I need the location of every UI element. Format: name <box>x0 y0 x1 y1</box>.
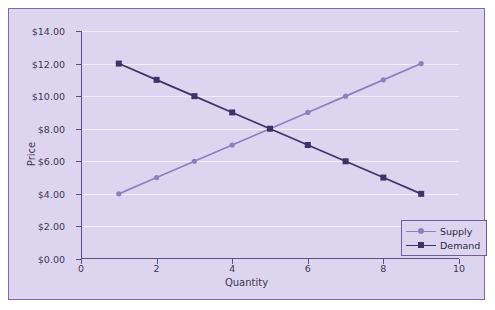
legend-item-demand: Demand <box>406 238 482 252</box>
legend-label: Demand <box>436 240 480 251</box>
chart-legend: SupplyDemand <box>401 220 487 256</box>
x-tick-label: 6 <box>305 263 311 274</box>
x-axis-title: Quantity <box>9 277 484 288</box>
data-point-marker <box>154 175 159 180</box>
x-axis-tick-labels: 0246810 <box>81 259 459 275</box>
square-marker-icon <box>418 242 424 248</box>
data-point-marker <box>192 159 197 164</box>
legend-label: Supply <box>436 226 472 237</box>
data-point-marker <box>154 77 160 83</box>
x-tick-label: 4 <box>229 263 235 274</box>
data-point-marker <box>230 142 235 147</box>
y-tick-label: $2.00 <box>38 221 65 232</box>
data-point-marker <box>229 109 235 115</box>
y-tick-label: $6.00 <box>38 156 65 167</box>
y-tick-label: $12.00 <box>32 58 65 69</box>
x-tick <box>232 259 233 264</box>
data-point-marker <box>343 94 348 99</box>
data-point-marker <box>267 126 273 132</box>
x-tick <box>157 259 158 264</box>
data-point-marker <box>305 110 310 115</box>
data-point-marker <box>381 77 386 82</box>
data-point-marker <box>343 158 349 164</box>
y-tick-label: $4.00 <box>38 188 65 199</box>
data-point-marker <box>380 175 386 181</box>
data-point-marker <box>305 142 311 148</box>
y-tick-label: $10.00 <box>32 91 65 102</box>
x-tick-label: 8 <box>380 263 386 274</box>
data-point-marker <box>191 93 197 99</box>
y-tick-label: $0.00 <box>38 254 65 265</box>
x-tick <box>383 259 384 264</box>
legend-swatch <box>406 239 436 251</box>
y-tick-label: $14.00 <box>32 26 65 37</box>
x-tick-label: 2 <box>154 263 160 274</box>
data-point-marker <box>418 191 424 197</box>
x-tick <box>81 259 82 264</box>
circle-marker-icon <box>418 228 424 234</box>
y-axis-tick-labels: $0.00$2.00$4.00$6.00$8.00$10.00$12.00$14… <box>1 31 65 259</box>
x-tick-label: 0 <box>78 263 84 274</box>
y-tick-label: $8.00 <box>38 123 65 134</box>
x-tick <box>308 259 309 264</box>
data-point-marker <box>116 191 121 196</box>
series-demand <box>116 61 424 197</box>
data-point-marker <box>419 61 424 66</box>
legend-item-supply: Supply <box>406 224 482 238</box>
x-tick-label: 10 <box>453 263 465 274</box>
data-point-marker <box>116 61 122 67</box>
legend-swatch <box>406 225 436 237</box>
x-tick <box>459 259 460 264</box>
chart-frame: Price $0.00$2.00$4.00$6.00$8.00$10.00$12… <box>8 8 485 300</box>
